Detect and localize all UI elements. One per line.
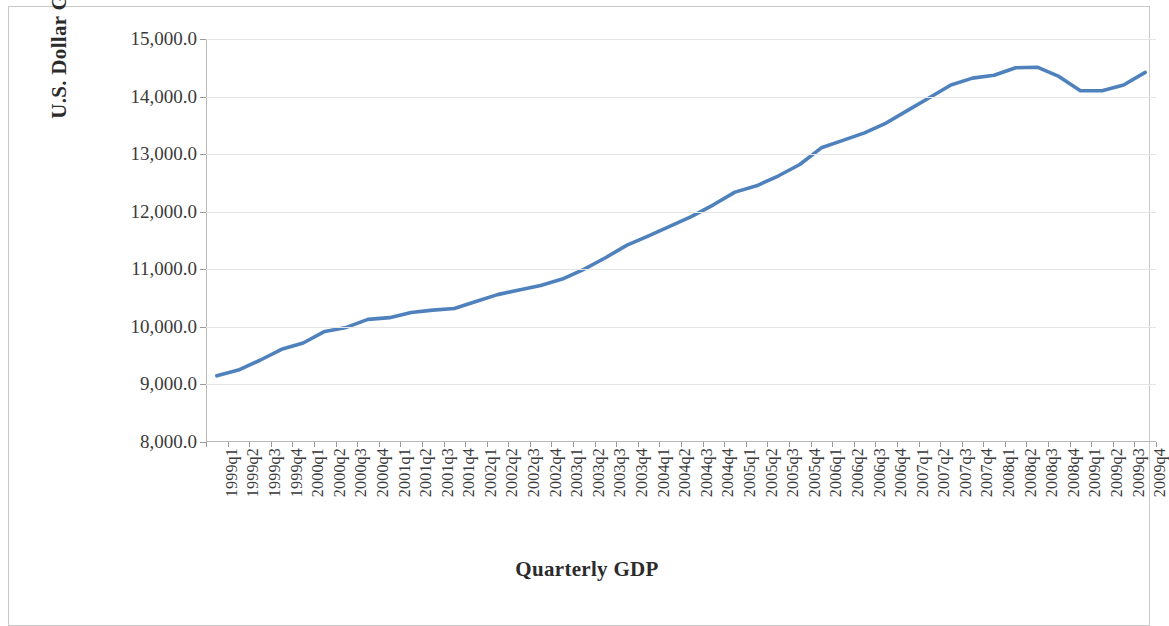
y-axis-tickmark <box>200 269 206 270</box>
x-axis-tickmark <box>1048 442 1049 447</box>
x-axis-tickmark <box>681 442 682 447</box>
y-axis-tick-label: 8,000.0 <box>77 431 197 453</box>
gridline <box>206 384 1156 385</box>
x-axis-tick-label: 2002q4 <box>547 448 565 497</box>
x-axis-tick-label: 2006q3 <box>871 448 889 497</box>
y-axis-tick-label: 14,000.0 <box>77 86 197 108</box>
x-axis-tickmark <box>357 442 358 447</box>
x-axis-tickmark <box>832 442 833 447</box>
x-axis-tick-label: 1999q1 <box>223 448 241 497</box>
x-axis-tick-label: 2004q1 <box>655 448 673 497</box>
x-axis-tickmark <box>789 442 790 447</box>
x-axis-tickmark <box>703 442 704 447</box>
x-axis-tickmark <box>444 442 445 447</box>
y-axis-tick-label: 10,000.0 <box>77 316 197 338</box>
x-axis-tick-label: 2000q2 <box>331 448 349 497</box>
x-axis-title: Quarterly GDP <box>9 557 1165 582</box>
y-axis-tickmark <box>200 154 206 155</box>
x-axis-tickmark <box>659 442 660 447</box>
x-axis-tick-label: 2004q4 <box>719 448 737 497</box>
x-axis-tick-label: 2008q1 <box>1000 448 1018 497</box>
y-axis-tick-label: 11,000.0 <box>77 258 197 280</box>
x-axis-tickmark <box>746 442 747 447</box>
y-axis-tickmark <box>200 384 206 385</box>
x-axis-tick-label: 2007q4 <box>978 448 996 497</box>
y-axis-tickmark <box>200 97 206 98</box>
x-axis-tickmark <box>530 442 531 447</box>
x-axis-tick-label: 1999q4 <box>288 448 306 497</box>
x-axis-tickmark <box>271 442 272 447</box>
y-axis-tick-label: 12,000.0 <box>77 201 197 223</box>
x-axis-tickmark <box>919 442 920 447</box>
x-axis-tickmark <box>508 442 509 447</box>
x-axis-tick-label: 2004q2 <box>676 448 694 497</box>
gridline <box>206 269 1156 270</box>
x-axis-tick-label: 2003q4 <box>633 448 651 497</box>
x-axis-tickmark <box>551 442 552 447</box>
x-axis-tickmark <box>940 442 941 447</box>
gridline <box>206 39 1156 40</box>
x-axis-tickmark <box>811 442 812 447</box>
x-axis-tickmark <box>983 442 984 447</box>
x-axis-tick-label: 2000q1 <box>309 448 327 497</box>
x-axis-tick-label: 2001q3 <box>439 448 457 497</box>
gridline <box>206 154 1156 155</box>
x-axis-tick-labels: 1999q11999q21999q31999q42000q12000q22000… <box>206 448 1156 538</box>
x-axis-tick-label: 2006q1 <box>827 448 845 497</box>
x-axis-tick-label: 2009q2 <box>1108 448 1126 497</box>
x-axis-tick-label: 2003q2 <box>590 448 608 497</box>
x-axis-tick-label: 2006q2 <box>849 448 867 497</box>
y-axis-tickmark <box>200 327 206 328</box>
x-axis-tickmark <box>422 442 423 447</box>
x-axis-tickmark <box>249 442 250 447</box>
x-axis-tickmark <box>206 442 207 447</box>
x-axis-tickmark <box>1070 442 1071 447</box>
x-axis-tick-label: 1999q2 <box>244 448 262 497</box>
x-axis-tickmark <box>1005 442 1006 447</box>
x-axis-tick-label: 2005q4 <box>806 448 824 497</box>
x-axis-tick-label: 2006q4 <box>892 448 910 497</box>
x-axis-tickmark <box>487 442 488 447</box>
x-axis-tick-label: 2007q2 <box>935 448 953 497</box>
y-axis-tick-label: 15,000.0 <box>77 28 197 50</box>
x-axis-tick-label: 2002q2 <box>503 448 521 497</box>
x-axis-tickmark <box>962 442 963 447</box>
x-axis-tickmark <box>897 442 898 447</box>
x-axis-tickmark <box>595 442 596 447</box>
x-axis-tickmark <box>379 442 380 447</box>
x-axis-tickmark <box>854 442 855 447</box>
x-axis-tickmark <box>1026 442 1027 447</box>
x-axis-tick-label: 2009q1 <box>1086 448 1104 497</box>
chart-frame: U.S. Dollar GDP 8,000.09,000.010,000.011… <box>8 6 1150 626</box>
x-axis-tick-label: 2000q4 <box>374 448 392 497</box>
x-axis-tick-label: 2002q1 <box>482 448 500 497</box>
x-axis-tick-label: 2007q1 <box>914 448 932 497</box>
x-axis-tick-label: 2008q4 <box>1065 448 1083 497</box>
x-axis-tick-label: 2005q1 <box>741 448 759 497</box>
gridline <box>206 212 1156 213</box>
x-axis-tick-label: 2009q4 <box>1151 448 1169 497</box>
x-axis-tick-label: 2007q3 <box>957 448 975 497</box>
x-axis-tickmark <box>465 442 466 447</box>
x-axis-tickmark <box>724 442 725 447</box>
x-axis-tick-label: 2009q3 <box>1130 448 1148 497</box>
x-axis-tickmark <box>1156 442 1157 447</box>
x-axis-tick-label: 2002q3 <box>525 448 543 497</box>
gridline <box>206 97 1156 98</box>
y-axis-tick-labels: 8,000.09,000.010,000.011,000.012,000.013… <box>69 7 197 614</box>
x-axis-tick-label: 1999q3 <box>266 448 284 497</box>
x-axis-tick-label: 2004q3 <box>698 448 716 497</box>
x-axis-tick-label: 2001q4 <box>460 448 478 497</box>
x-axis-tickmark <box>228 442 229 447</box>
x-axis-tickmark <box>1091 442 1092 447</box>
x-axis-tickmark <box>616 442 617 447</box>
y-axis-tick-label: 13,000.0 <box>77 143 197 165</box>
plot-area <box>206 39 1156 442</box>
x-axis-tick-label: 2003q1 <box>568 448 586 497</box>
x-axis-tick-label: 2005q2 <box>763 448 781 497</box>
x-axis-tickmark <box>1113 442 1114 447</box>
x-axis-tickmark <box>292 442 293 447</box>
x-axis-tick-label: 2001q1 <box>396 448 414 497</box>
x-axis-tick-label: 2001q2 <box>417 448 435 497</box>
x-axis-tick-label: 2005q3 <box>784 448 802 497</box>
